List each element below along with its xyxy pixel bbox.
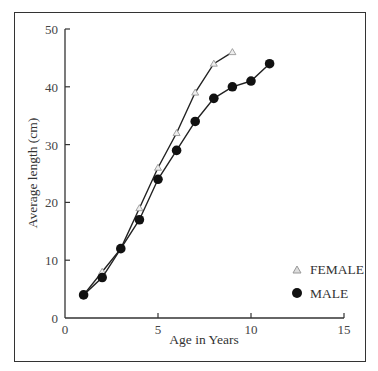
triangle-marker-icon xyxy=(293,266,301,273)
filled-circle-marker-icon xyxy=(153,174,163,184)
line-chart: 01020304050 051015 Age in Years Average … xyxy=(0,0,378,371)
y-tick-label: 10 xyxy=(45,253,58,268)
filled-circle-marker-icon xyxy=(190,117,200,127)
legend-item-male: MALE xyxy=(292,286,348,301)
filled-circle-marker-icon xyxy=(79,290,89,300)
triangle-marker-icon xyxy=(210,60,217,66)
y-tick-label: 40 xyxy=(45,80,58,95)
triangle-marker-icon xyxy=(229,49,236,55)
filled-circle-marker-icon xyxy=(97,273,107,283)
y-axis-title: Average length (cm) xyxy=(25,118,40,229)
filled-circle-marker-icon xyxy=(246,76,256,86)
legend-item-female: FEMALE xyxy=(293,262,364,277)
triangle-marker-icon xyxy=(136,205,143,211)
x-axis-title: Age in Years xyxy=(169,332,238,347)
y-tick-label: 0 xyxy=(52,311,59,326)
series-line xyxy=(84,52,233,295)
y-tick-label: 50 xyxy=(45,22,58,37)
x-tick-label: 5 xyxy=(155,322,162,337)
y-tick-label: 30 xyxy=(45,138,58,153)
y-axis-ticks: 01020304050 xyxy=(45,22,70,326)
female-series xyxy=(80,49,236,298)
x-tick-label: 0 xyxy=(62,322,69,337)
legend-label-male: MALE xyxy=(310,286,348,301)
legend-label-female: FEMALE xyxy=(310,262,364,277)
filled-circle-marker-icon xyxy=(228,82,238,92)
filled-circle-marker-icon xyxy=(172,146,182,156)
filled-circle-marker-icon xyxy=(292,288,302,298)
x-tick-label: 10 xyxy=(245,322,258,337)
filled-circle-marker-icon xyxy=(116,244,126,254)
filled-circle-marker-icon xyxy=(209,94,219,104)
y-tick-label: 20 xyxy=(45,195,58,210)
legend: FEMALE MALE xyxy=(292,262,364,301)
x-tick-label: 15 xyxy=(338,322,351,337)
filled-circle-marker-icon xyxy=(265,59,275,69)
triangle-marker-icon xyxy=(173,130,180,136)
triangle-marker-icon xyxy=(155,164,162,170)
filled-circle-marker-icon xyxy=(135,215,145,225)
